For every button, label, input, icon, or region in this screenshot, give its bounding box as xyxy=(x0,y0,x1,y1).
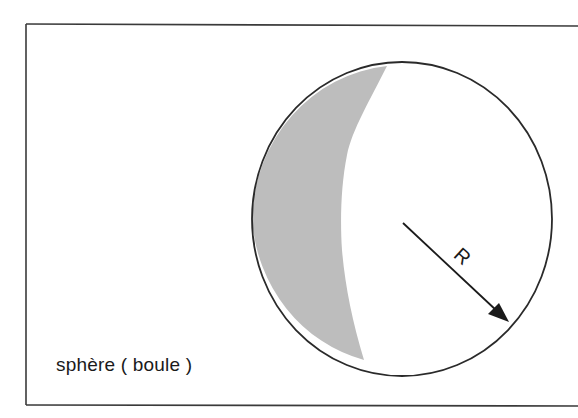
shaded-region xyxy=(252,66,387,360)
radius-arrow-icon xyxy=(403,223,509,322)
diagram-caption: sphère ( boule ) xyxy=(56,354,192,376)
